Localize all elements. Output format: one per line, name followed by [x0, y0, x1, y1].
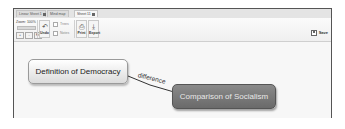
toolbar-divider	[74, 20, 75, 38]
checkbox[interactable]	[53, 22, 58, 27]
undo-label: Undo	[40, 31, 49, 35]
print-label: Print	[77, 31, 86, 35]
close-icon[interactable]	[43, 13, 46, 16]
map-canvas[interactable]: difference Definition of Democracy Compa…	[14, 42, 331, 118]
notes-option[interactable]: Notes	[53, 31, 69, 36]
undo-icon: ↶	[41, 23, 48, 30]
tab-label: Mind map	[50, 12, 65, 16]
tab-sheet-11[interactable]: Sheet 11	[74, 10, 98, 17]
save-icon	[311, 30, 317, 36]
checkbox[interactable]	[53, 31, 58, 36]
option-label: Notes	[60, 31, 69, 35]
option-label: Trees	[60, 22, 69, 26]
close-icon[interactable]	[92, 13, 95, 16]
topic-node[interactable]: Definition of Democracy	[28, 59, 128, 84]
download-icon: ⤓	[90, 23, 97, 30]
tab-label: Linear Sheet 1	[19, 12, 42, 16]
node-label: Comparison of Socialism	[180, 92, 268, 101]
save-label: Save	[319, 28, 328, 37]
toolbar: Zoom: 100% + - Fit ↶ Undo Trees Notes ⎙ …	[14, 18, 331, 42]
zoom-group: Zoom: 100% + - Fit	[16, 20, 36, 38]
zoom-in-button[interactable]: +	[16, 32, 24, 39]
topic-node[interactable]: Comparison of Socialism	[172, 84, 276, 109]
save-button[interactable]: Save	[311, 28, 328, 37]
trees-option[interactable]: Trees	[53, 22, 69, 27]
toolbar-divider	[37, 20, 38, 38]
print-icon: ⎙	[78, 23, 85, 30]
export-button[interactable]: ⤓ Export	[88, 20, 99, 38]
zoom-level: Zoom: 100%	[16, 20, 36, 24]
tab-linear-sheet[interactable]: Linear Sheet 1	[16, 10, 46, 17]
print-button[interactable]: ⎙ Print	[76, 20, 87, 38]
node-label: Definition of Democracy	[36, 67, 121, 76]
undo-button[interactable]: ↶ Undo	[39, 20, 50, 38]
export-label: Export	[89, 31, 98, 35]
tab-label: Sheet 11	[77, 12, 91, 16]
zoom-slider[interactable]	[17, 26, 36, 30]
tab-mind-map[interactable]: Mind map	[47, 10, 69, 17]
zoom-out-button[interactable]: -	[25, 32, 33, 39]
mind-map-window: Linear Sheet 1 Mind map Sheet 11 Zoom: 1…	[13, 8, 332, 118]
